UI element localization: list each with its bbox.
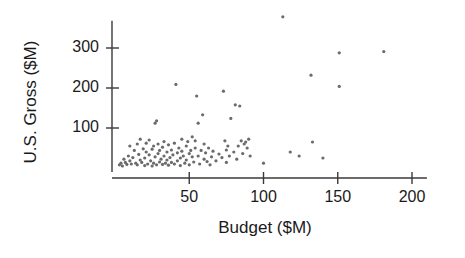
data-point: [207, 146, 210, 149]
y-tick-label: 200: [59, 78, 99, 96]
data-point: [244, 140, 247, 143]
x-tick-label: 50: [169, 188, 209, 206]
data-point: [240, 139, 243, 142]
data-point: [195, 94, 198, 97]
data-point: [176, 159, 179, 162]
data-point: [235, 158, 238, 161]
data-point: [176, 151, 179, 154]
data-point: [161, 146, 164, 149]
data-point: [145, 150, 148, 153]
data-point: [198, 162, 201, 165]
data-point: [140, 161, 143, 164]
data-point: [146, 162, 149, 165]
data-point: [133, 149, 136, 152]
data-point: [167, 164, 170, 167]
x-tick-label: 150: [318, 188, 358, 206]
data-point: [156, 142, 159, 145]
data-point: [161, 163, 164, 166]
data-point: [127, 154, 130, 157]
data-point: [168, 156, 171, 159]
data-point: [338, 51, 341, 54]
data-point: [214, 159, 217, 162]
data-point: [298, 154, 301, 157]
data-point: [203, 142, 206, 145]
data-point: [232, 150, 235, 153]
data-point: [173, 142, 176, 145]
data-point: [139, 138, 142, 141]
data-point: [309, 74, 312, 77]
data-point: [203, 158, 206, 161]
data-point: [192, 160, 195, 163]
axes-group: [106, 21, 427, 184]
data-point: [171, 153, 174, 156]
data-point: [159, 158, 162, 161]
data-point: [158, 149, 161, 152]
data-point: [162, 154, 165, 157]
x-tick-label: 200: [392, 188, 432, 206]
data-point: [249, 154, 252, 157]
data-point: [205, 160, 208, 163]
data-point: [121, 164, 124, 167]
data-point: [167, 143, 170, 146]
data-point: [338, 85, 341, 88]
data-point: [130, 162, 133, 165]
data-point: [247, 138, 250, 141]
data-point: [148, 153, 151, 156]
data-point: [125, 163, 128, 166]
data-point: [151, 148, 154, 151]
data-points-group: [118, 15, 386, 167]
data-point: [155, 163, 158, 166]
data-point: [191, 135, 194, 138]
data-point: [173, 162, 176, 165]
data-point: [180, 150, 183, 153]
data-point: [122, 158, 125, 161]
data-point: [136, 163, 139, 166]
scatter-chart-figure: U.S. Gross ($M) Budget ($M) 501001502001…: [0, 0, 465, 258]
data-point: [188, 163, 191, 166]
data-point: [165, 158, 168, 161]
data-point: [197, 122, 200, 125]
data-point: [223, 139, 226, 142]
data-point: [211, 150, 214, 153]
data-point: [200, 149, 203, 152]
data-point: [226, 144, 229, 147]
y-tick-label: 100: [59, 118, 99, 136]
data-point: [170, 148, 173, 151]
data-point: [174, 83, 177, 86]
data-point: [208, 163, 211, 166]
data-point: [229, 117, 232, 120]
data-point: [204, 151, 207, 154]
data-point: [225, 148, 228, 151]
data-point: [311, 140, 314, 143]
data-point: [128, 144, 131, 147]
data-point: [241, 152, 244, 155]
data-point: [201, 113, 204, 116]
data-point: [142, 147, 145, 150]
data-point: [179, 156, 182, 159]
data-point: [137, 153, 140, 156]
data-point: [185, 158, 188, 161]
data-point: [246, 146, 249, 149]
data-point: [197, 154, 200, 157]
data-point: [180, 138, 183, 141]
data-point: [188, 152, 191, 155]
data-point: [182, 154, 185, 157]
data-point: [237, 144, 240, 147]
data-point: [217, 152, 220, 155]
data-point: [234, 103, 237, 106]
data-point: [177, 146, 180, 149]
data-point: [225, 161, 228, 164]
data-point: [194, 146, 197, 149]
x-tick-label: 100: [244, 188, 284, 206]
data-point: [170, 161, 173, 164]
data-point: [382, 50, 385, 53]
data-point: [143, 156, 146, 159]
data-point: [143, 164, 146, 167]
data-point: [220, 156, 223, 159]
data-point: [210, 155, 213, 158]
data-point: [136, 142, 139, 145]
data-point: [183, 162, 186, 165]
data-point: [321, 156, 324, 159]
data-point: [162, 140, 165, 143]
data-point: [155, 119, 158, 122]
